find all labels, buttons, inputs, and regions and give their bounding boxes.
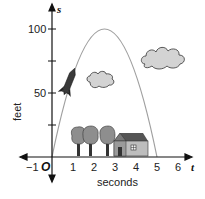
rocket-icon xyxy=(57,66,81,98)
x-tick-6: 6 xyxy=(175,161,181,173)
y-axis-title: feet xyxy=(11,103,23,121)
x-tick-neg1: −1 xyxy=(26,161,39,173)
y-axis-var: s xyxy=(56,3,61,15)
cloud-icon-large xyxy=(141,47,184,69)
x-tick-4: 4 xyxy=(133,161,139,173)
chart: s t 100 50 feet −1 O 1 2 3 4 5 6 seconds xyxy=(0,0,205,199)
origin-label: O xyxy=(41,160,51,174)
x-tick-5: 5 xyxy=(154,161,160,173)
y-tick-100: 100 xyxy=(28,23,46,35)
x-tick-1: 1 xyxy=(70,161,76,173)
x-axis-title: seconds xyxy=(97,176,138,188)
cloud-icon-small xyxy=(87,71,114,87)
y-tick-50: 50 xyxy=(34,87,46,99)
x-tick-3: 3 xyxy=(112,161,118,173)
house-icon xyxy=(114,133,148,156)
x-axis-var: t xyxy=(191,161,195,173)
x-tick-2: 2 xyxy=(91,161,97,173)
trees-icon xyxy=(71,126,115,156)
